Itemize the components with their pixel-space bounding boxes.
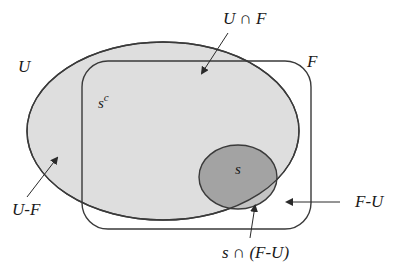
label-U-minus-F: U-F — [12, 200, 41, 219]
label-F-minus-U: F-U — [354, 192, 385, 211]
arrow-s-intersect-F-minus-U — [250, 206, 255, 238]
label-U-intersect-F: U ∩ F — [223, 9, 267, 28]
label-s-intersect-F-minus-U: s ∩ (F-U) — [222, 243, 289, 262]
label-s: s — [235, 161, 241, 177]
venn-diagram: U F U ∩ F sc s U-F F-U s ∩ (F-U) — [0, 0, 397, 278]
label-U: U — [18, 57, 32, 76]
label-F: F — [306, 52, 318, 71]
label-s-complement-sup: c — [104, 91, 109, 103]
